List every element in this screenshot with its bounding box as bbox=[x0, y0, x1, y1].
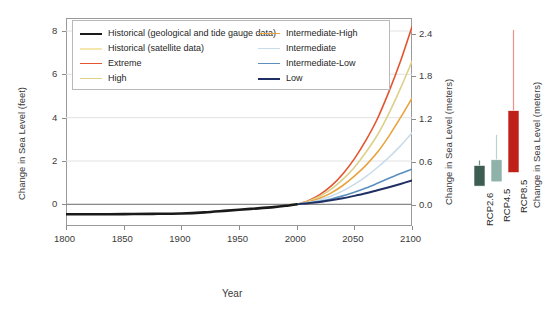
y-tick-right bbox=[412, 34, 416, 35]
x-tick bbox=[239, 226, 240, 230]
legend-item[interactable]: Intermediate-Low bbox=[258, 56, 358, 71]
x-tick-label: 2000 bbox=[285, 233, 306, 244]
legend-column-right: Intermediate-HighIntermediateIntermediat… bbox=[258, 26, 358, 86]
y-tick-left bbox=[62, 118, 66, 119]
x-tick bbox=[354, 226, 355, 230]
series-line bbox=[66, 204, 297, 214]
legend-swatch-line bbox=[258, 78, 280, 80]
legend-item-label: Extreme bbox=[108, 59, 142, 68]
rcp-bar[interactable] bbox=[491, 160, 502, 182]
y-tick-left bbox=[62, 31, 66, 32]
y-tick-label-meters: 0.6 bbox=[419, 156, 432, 167]
rcp-axis-title: Change in Sea Level (meters) bbox=[531, 82, 542, 208]
legend-item-label: Historical (satellite data) bbox=[108, 44, 204, 53]
sea-level-rise-chart: Change in Sea Level (feet) Historical (g… bbox=[0, 0, 545, 311]
x-tick-label: 2100 bbox=[400, 233, 421, 244]
rcp-category-label: RCP2.6 bbox=[484, 193, 495, 226]
legend-item[interactable]: Intermediate-High bbox=[258, 26, 358, 41]
left-axis-title: Change in Sea Level (feet) bbox=[16, 87, 27, 200]
y-tick-label-meters: 0.0 bbox=[419, 199, 432, 210]
legend-swatch-line bbox=[80, 48, 102, 50]
legend-swatch-line bbox=[258, 63, 280, 64]
x-tick-label: 1950 bbox=[227, 233, 248, 244]
legend-item[interactable]: High bbox=[80, 71, 276, 86]
legend-item-label: High bbox=[108, 74, 127, 83]
rcp-bar-panel bbox=[470, 18, 522, 226]
legend-item[interactable]: Low bbox=[258, 71, 358, 86]
x-tick-label: 1850 bbox=[112, 233, 133, 244]
y-tick-label-meters: 2.4 bbox=[419, 28, 432, 39]
x-tick-label: 2050 bbox=[342, 233, 363, 244]
x-tick-label: 1800 bbox=[54, 233, 75, 244]
rcp-bar[interactable] bbox=[474, 165, 485, 186]
right-axis-title: Change in Sea Level (meters) bbox=[443, 79, 454, 205]
legend-item-label: Historical (geological and tide gauge da… bbox=[108, 29, 276, 38]
legend-swatch-line bbox=[258, 33, 280, 34]
y-tick-label-feet: 0 bbox=[52, 198, 57, 209]
rcp-bar[interactable] bbox=[508, 111, 519, 173]
y-tick-left bbox=[62, 74, 66, 75]
legend-item[interactable]: Extreme bbox=[80, 56, 276, 71]
y-tick-label-feet: 2 bbox=[52, 155, 57, 166]
legend-swatch-line bbox=[80, 33, 102, 35]
y-tick-right bbox=[412, 205, 416, 206]
rcp-canvas bbox=[470, 18, 522, 226]
legend-item-label: Intermediate-Low bbox=[286, 59, 356, 68]
y-tick-label-meters: 1.2 bbox=[419, 113, 432, 124]
y-tick-label-feet: 8 bbox=[52, 25, 57, 36]
y-tick-label-feet: 6 bbox=[52, 68, 57, 79]
x-axis-title: Year bbox=[222, 288, 242, 299]
y-tick-label-feet: 4 bbox=[52, 112, 57, 123]
legend-item-label: Intermediate bbox=[286, 44, 336, 53]
y-tick-left bbox=[62, 204, 66, 205]
legend-column-left: Historical (geological and tide gauge da… bbox=[80, 26, 276, 86]
x-tick bbox=[181, 226, 182, 230]
legend-item[interactable]: Historical (satellite data) bbox=[80, 41, 276, 56]
x-tick bbox=[124, 226, 125, 230]
x-tick bbox=[66, 226, 67, 230]
legend-item[interactable]: Intermediate bbox=[258, 41, 358, 56]
legend-swatch-line bbox=[258, 48, 280, 49]
y-tick-right bbox=[412, 76, 416, 77]
legend-item-label: Intermediate-High bbox=[286, 29, 358, 38]
y-tick-label-meters: 1.8 bbox=[419, 70, 432, 81]
x-tick bbox=[412, 226, 413, 230]
rcp-category-label: RCP4.5 bbox=[501, 189, 512, 222]
legend-item[interactable]: Historical (geological and tide gauge da… bbox=[80, 26, 276, 41]
chart-legend: Historical (geological and tide gauge da… bbox=[72, 20, 390, 90]
y-tick-right bbox=[412, 162, 416, 163]
rcp-category-label: RCP8.5 bbox=[518, 179, 529, 212]
legend-swatch-line bbox=[80, 78, 102, 79]
legend-item-label: Low bbox=[286, 74, 303, 83]
x-tick-label: 1900 bbox=[169, 233, 190, 244]
legend-swatch-line bbox=[80, 63, 102, 64]
y-tick-left bbox=[62, 161, 66, 162]
y-tick-right bbox=[412, 119, 416, 120]
x-tick bbox=[297, 226, 298, 230]
